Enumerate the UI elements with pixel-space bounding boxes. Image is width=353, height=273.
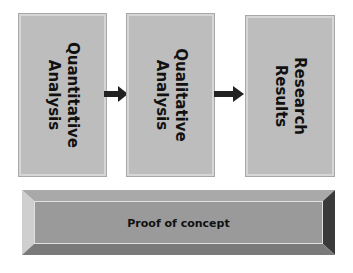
box-label-line2: Analysis [152,48,171,141]
box-label-line1: Qualitative [171,48,190,141]
proof-of-concept-bevel: Proof of concept [22,190,335,255]
proof-of-concept-label: Proof of concept [22,216,335,229]
box-label-line1: Quantitative [63,42,82,148]
right-arrow-icon [104,86,128,102]
box-label-line1: Research [290,57,309,135]
box-label: Quantitative Analysis [44,42,82,148]
box-label-line2: Analysis [44,42,63,148]
right-arrow-icon [214,86,244,102]
box-label: Qualitative Analysis [152,48,190,141]
box-research-results: Research Results [245,15,335,177]
box-label-line2: Results [271,57,290,135]
box-qualitative-analysis: Qualitative Analysis [126,13,215,177]
box-label: Research Results [271,57,309,135]
box-quantitative-analysis: Quantitative Analysis [18,13,107,177]
